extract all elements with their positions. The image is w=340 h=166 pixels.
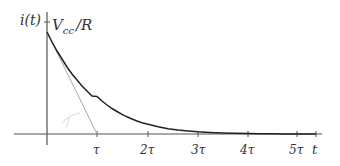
tick-label-4tau: 4τ bbox=[240, 143, 254, 157]
initial-value-main: V bbox=[52, 16, 63, 34]
decay-curve bbox=[47, 32, 316, 134]
y-axis-label: i(t) bbox=[20, 12, 41, 28]
rc-discharge-diagram: i(t) Vcc/R τ 2τ 3τ 4τ 5τ t bbox=[0, 0, 340, 166]
plot-canvas bbox=[0, 0, 340, 166]
initial-value-sub: cc bbox=[63, 25, 74, 36]
initial-value-rest: /R bbox=[76, 16, 92, 34]
x-axis-label: t bbox=[312, 142, 317, 157]
tick-label-tau: τ bbox=[93, 143, 100, 157]
tick-label-2tau: 2τ bbox=[140, 143, 154, 157]
initial-value-label: Vcc/R bbox=[52, 16, 92, 36]
tick-label-5tau: 5τ bbox=[289, 143, 303, 157]
tick-label-3tau: 3τ bbox=[191, 143, 205, 157]
faint-tau-mark bbox=[62, 113, 80, 128]
